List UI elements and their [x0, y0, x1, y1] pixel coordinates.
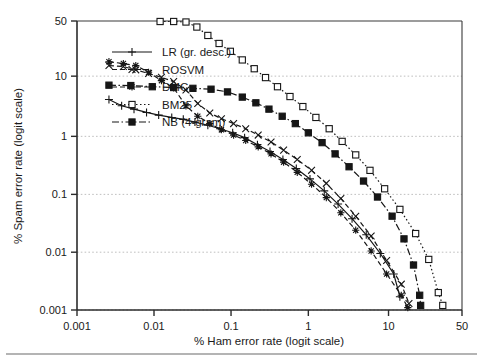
- x-tick-label: 0.01: [143, 320, 164, 332]
- data-point-marker: [382, 186, 388, 192]
- data-point-marker: [332, 151, 338, 157]
- data-point-marker: [346, 164, 352, 170]
- data-point-marker: [262, 74, 268, 80]
- figure-container: 0.0010.010.111050 0.0010.010.111050 % Ha…: [0, 0, 483, 363]
- data-point-marker: [287, 93, 293, 99]
- data-point-marker: [242, 137, 249, 144]
- y-tick-label: 1: [61, 130, 67, 142]
- data-point-marker: [266, 106, 272, 112]
- legend-label: BM25: [162, 99, 192, 111]
- legend-label: NB (4-gram): [162, 116, 225, 128]
- data-point-marker: [319, 140, 325, 146]
- data-point-marker: [410, 262, 416, 268]
- y-tick-label: 0.1: [52, 188, 67, 200]
- data-point-marker: [105, 58, 112, 65]
- data-point-marker: [383, 270, 390, 277]
- y-axis-title: % Spam error rate (logit scale): [12, 88, 24, 244]
- data-point-marker: [368, 247, 375, 254]
- data-point-marker: [294, 169, 301, 176]
- data-point-marker: [120, 60, 127, 67]
- data-point-marker: [418, 302, 424, 308]
- data-point-marker: [339, 138, 345, 144]
- data-point-marker: [280, 159, 287, 166]
- legend-marker-sample: [129, 119, 135, 125]
- data-point-marker: [413, 230, 419, 236]
- data-point-marker: [292, 121, 298, 127]
- legend-label: ROSVM: [162, 64, 204, 76]
- data-point-marker: [323, 194, 330, 201]
- data-point-marker: [300, 103, 306, 109]
- data-point-marker: [374, 194, 380, 200]
- data-point-marker: [337, 209, 344, 216]
- legend-label: DMC: [162, 81, 188, 93]
- data-point-marker: [352, 227, 359, 234]
- data-point-marker: [190, 85, 196, 91]
- data-point-marker: [239, 94, 245, 100]
- y-tick-label: 0.01: [46, 246, 67, 258]
- data-point-marker: [251, 66, 257, 72]
- data-point-marker: [255, 143, 262, 150]
- chart-background: [0, 0, 483, 363]
- x-tick-label: 0.001: [63, 320, 91, 332]
- data-point-marker: [305, 130, 311, 136]
- x-tick-label: 50: [456, 320, 468, 332]
- roc-chart: 0.0010.010.111050 0.0010.010.111050 % Ha…: [0, 0, 483, 363]
- data-point-marker: [253, 100, 259, 106]
- legend-marker-sample: [129, 101, 135, 107]
- data-point-marker: [274, 84, 280, 90]
- data-point-marker: [106, 82, 112, 88]
- x-tick-label: 10: [382, 320, 394, 332]
- data-point-marker: [230, 132, 237, 139]
- data-point-marker: [157, 18, 163, 24]
- x-axis-title: % Ham error rate (logit scale): [194, 335, 344, 347]
- x-tick-label: 1: [305, 320, 311, 332]
- x-tick-label: 0.1: [223, 320, 238, 332]
- legend-marker-sample: [128, 83, 135, 90]
- data-point-marker: [308, 181, 315, 188]
- data-point-marker: [171, 18, 177, 24]
- data-point-marker: [279, 113, 285, 119]
- y-tick-label: 50: [55, 15, 67, 27]
- data-point-marker: [149, 84, 155, 90]
- data-point-marker: [205, 32, 211, 38]
- data-point-marker: [183, 19, 189, 25]
- data-point-marker: [401, 236, 407, 242]
- data-point-marker: [435, 290, 441, 296]
- y-tick-label: 0.001: [39, 304, 67, 316]
- data-point-marker: [194, 24, 200, 30]
- data-point-marker: [404, 304, 411, 311]
- data-point-marker: [267, 150, 274, 157]
- data-point-marker: [313, 114, 319, 120]
- y-tick-label: 10: [55, 70, 67, 82]
- data-point-marker: [417, 292, 423, 298]
- data-point-marker: [224, 89, 230, 95]
- data-point-marker: [397, 206, 403, 212]
- data-point-marker: [367, 167, 373, 173]
- data-point-marker: [360, 178, 366, 184]
- legend-label: LR (gr. desc.): [162, 46, 231, 58]
- data-point-marker: [440, 302, 446, 308]
- data-point-marker: [239, 57, 245, 63]
- data-point-marker: [389, 213, 395, 219]
- data-point-marker: [208, 86, 214, 92]
- data-point-marker: [353, 152, 359, 158]
- data-point-marker: [326, 126, 332, 132]
- data-point-marker: [426, 256, 432, 262]
- data-point-marker: [398, 292, 405, 299]
